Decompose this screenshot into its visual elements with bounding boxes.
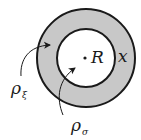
label-rho-xi: ρξ [11, 80, 27, 97]
rho-xi-base: ρ [11, 78, 21, 98]
label-rho-sigma: ρσ [71, 117, 88, 134]
rho-sigma-base: ρ [71, 115, 81, 135]
rho-sigma-subscript: σ [82, 127, 88, 137]
label-ring-x: x [118, 48, 128, 65]
center-point [83, 56, 86, 59]
rho-xi-subscript: ξ [22, 90, 27, 100]
concentric-circles-diagram: R x ρξ ρσ [0, 0, 141, 140]
label-center-R: R [91, 49, 104, 66]
